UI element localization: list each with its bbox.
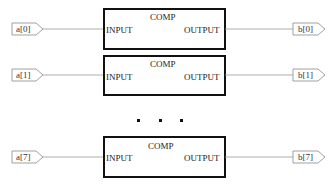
input-pin-label: a[7]	[16, 152, 31, 162]
comp-block-7: a[7] COMP INPUT OUTPUT b[7]	[12, 137, 325, 177]
input-port-label: INPUT	[106, 72, 133, 82]
block-title: COMP	[148, 141, 174, 151]
output-port-label: OUTPUT	[184, 72, 220, 82]
output-port-label: OUTPUT	[184, 25, 220, 35]
output-port-label: OUTPUT	[184, 153, 220, 163]
output-pin-label: b[7]	[298, 152, 313, 162]
comp-block-0: a[0] COMP INPUT OUTPUT b[0]	[12, 9, 325, 49]
input-port-label: INPUT	[106, 25, 133, 35]
comparator-array-diagram: a[0] COMP INPUT OUTPUT b[0] a[1] COMP IN…	[0, 0, 331, 187]
input-pin-label: a[0]	[16, 24, 31, 34]
output-pin-label: b[0]	[298, 24, 313, 34]
input-port-label: INPUT	[106, 153, 133, 163]
ellipsis-dots	[137, 119, 183, 122]
input-pin-label: a[1]	[16, 70, 31, 80]
output-pin-label: b[1]	[298, 70, 313, 80]
block-title: COMP	[150, 59, 176, 69]
comp-block-1: a[1] COMP INPUT OUTPUT b[1]	[12, 56, 325, 95]
block-title: COMP	[150, 12, 176, 22]
